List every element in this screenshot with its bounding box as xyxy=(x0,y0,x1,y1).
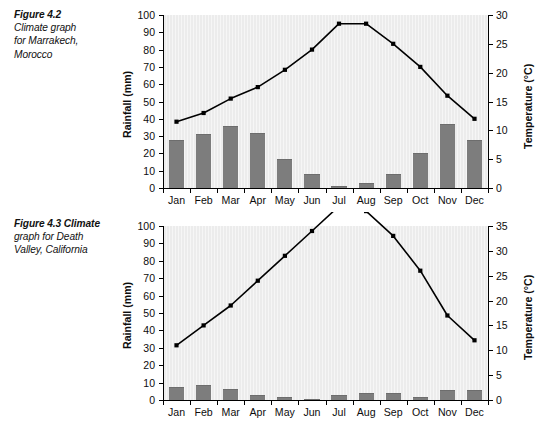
temperature-point-oct xyxy=(418,65,422,69)
temperature-point-nov xyxy=(445,313,449,317)
temperature-point-dec xyxy=(472,117,476,121)
temperature-line xyxy=(177,24,475,122)
figure-death-valley: Figure 4.3 Climate graph for Death Valle… xyxy=(0,212,558,424)
temperature-line-series xyxy=(0,212,558,424)
temperature-point-jan xyxy=(174,120,178,124)
temperature-point-sep xyxy=(391,234,395,238)
temperature-point-jul xyxy=(337,22,341,26)
temperature-line-series xyxy=(0,0,558,212)
temperature-point-feb xyxy=(202,111,206,115)
temperature-line xyxy=(177,212,475,345)
temperature-point-apr xyxy=(256,279,260,283)
temperature-point-jan xyxy=(174,343,178,347)
temperature-point-aug xyxy=(364,212,368,213)
temperature-point-dec xyxy=(472,338,476,342)
figure-marrakech: Figure 4.2 Climate graph for Marrakech, … xyxy=(0,0,558,212)
temperature-point-mar xyxy=(229,97,233,101)
temperature-point-mar xyxy=(229,303,233,307)
temperature-point-nov xyxy=(445,94,449,98)
temperature-point-may xyxy=(283,68,287,72)
climate-chart-marrakech: 0102030405060708090100051015202530JanFeb… xyxy=(0,0,558,212)
temperature-point-may xyxy=(283,254,287,258)
temperature-point-aug xyxy=(364,22,368,26)
temperature-point-sep xyxy=(391,42,395,46)
temperature-point-jun xyxy=(310,48,314,52)
temperature-point-jun xyxy=(310,229,314,233)
temperature-point-apr xyxy=(256,85,260,89)
temperature-point-feb xyxy=(202,323,206,327)
temperature-point-oct xyxy=(418,269,422,273)
climate-chart-death-valley: 010203040506070809010005101520253035JanF… xyxy=(0,212,558,424)
